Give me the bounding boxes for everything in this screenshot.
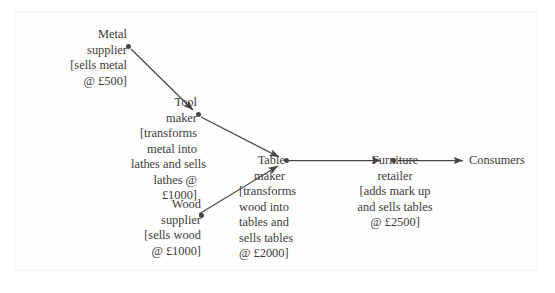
node-wood-supplier-line-1: supplier <box>135 213 201 229</box>
node-tool-maker-line-5: lathes @ <box>131 173 197 189</box>
node-table-maker-line-5: sells tables <box>239 231 285 247</box>
node-table-maker-line-0: Table <box>239 153 285 169</box>
node-tool-maker-line-0: Tool <box>131 95 197 111</box>
node-table-maker-line-1: maker <box>239 169 285 185</box>
node-metal-supplier-line-1: supplier <box>61 43 127 59</box>
node-metal-supplier-line-2: [sells metal <box>61 58 127 74</box>
diagram-canvas: Metal supplier [sells metal @ £500] Tool… <box>0 0 555 293</box>
node-furniture-retailer-line-2: [adds mark up <box>346 184 444 200</box>
node-wood-supplier-line-2: [sells wood <box>135 228 201 244</box>
node-wood-supplier-line-0: Wood <box>135 197 201 213</box>
node-table-maker-line-3: wood into <box>239 200 285 216</box>
node-furniture-retailer[interactable]: Furniture retailer [adds mark up and sel… <box>346 153 444 231</box>
node-furniture-retailer-line-0: Furniture <box>346 153 444 169</box>
node-metal-supplier-line-0: Metal <box>61 27 127 43</box>
node-tool-maker[interactable]: Tool maker [transforms metal into lathes… <box>131 95 197 204</box>
node-table-maker-line-2: [transforms <box>239 184 285 200</box>
node-furniture-retailer-line-3: and sells tables <box>346 200 444 216</box>
node-tool-maker-line-3: metal into <box>131 142 197 158</box>
node-consumers-line-0: Consumers <box>469 153 539 169</box>
node-table-maker-line-6: @ £2000] <box>239 246 285 262</box>
node-tool-maker-line-2: [transforms <box>131 126 197 142</box>
node-metal-supplier-line-3: @ £500] <box>61 74 127 90</box>
node-wood-supplier[interactable]: Wood supplier [sells wood @ £1000] <box>135 197 201 259</box>
node-consumers[interactable]: Consumers <box>469 153 539 169</box>
node-tool-maker-line-1: maker <box>131 111 197 127</box>
node-tool-maker-line-4: lathes and sells <box>131 157 197 173</box>
node-wood-supplier-line-3: @ £1000] <box>135 244 201 260</box>
node-furniture-retailer-line-4: @ £2500] <box>346 215 444 231</box>
node-table-maker-line-4: tables and <box>239 215 285 231</box>
node-metal-supplier[interactable]: Metal supplier [sells metal @ £500] <box>61 27 127 89</box>
node-furniture-retailer-line-1: retailer <box>346 169 444 185</box>
node-table-maker[interactable]: Table maker [transforms wood into tables… <box>239 153 285 262</box>
